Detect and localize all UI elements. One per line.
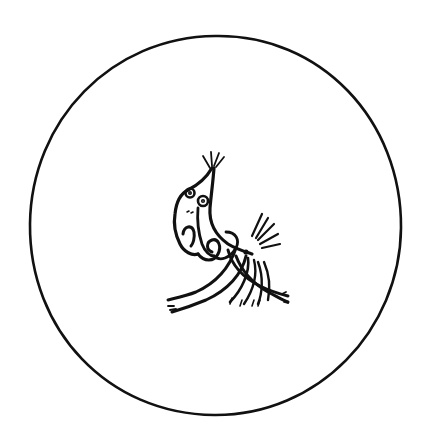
snout-tuft [203, 152, 224, 168]
illustration-canvas: Hand-drawn black ink sketch inside a lar… [0, 0, 428, 440]
ink-drawing [0, 0, 428, 440]
mouth [183, 227, 194, 246]
creature-figure [168, 152, 288, 312]
spray-lines [252, 214, 280, 248]
eye-right [198, 196, 208, 206]
outer-circle [30, 36, 401, 415]
